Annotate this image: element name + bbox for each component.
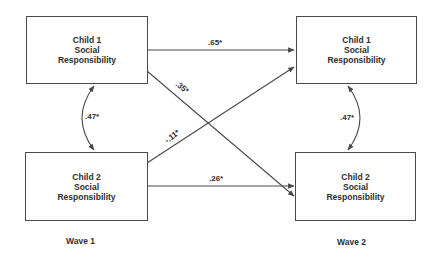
node-label: Responsibility (57, 192, 115, 202)
wave1-label: Wave 1 (66, 236, 95, 246)
node-wave2-child2: Child 2 Social Responsibility (295, 152, 416, 221)
node-label: Social (343, 182, 368, 192)
coef-c2-stability: .26* (209, 174, 223, 183)
node-label: Child 1 (342, 35, 370, 45)
node-label: Social (74, 45, 99, 55)
coef-w2-covariance: .47* (340, 113, 354, 122)
node-label: Responsibility (326, 192, 384, 202)
node-wave1-child2: Child 2 Social Responsibility (25, 152, 148, 221)
node-wave2-child1: Child 1 Social Responsibility (296, 16, 417, 84)
node-label: Child 2 (72, 172, 100, 182)
node-label: Child 2 (341, 172, 369, 182)
coef-c1-stability: .65* (208, 38, 222, 47)
node-label: Responsibility (327, 55, 385, 65)
arrow-c2-to-c1 (147, 67, 294, 163)
coef-w1-covariance: .47* (85, 112, 99, 121)
node-label: Social (74, 182, 99, 192)
node-label: Social (344, 45, 369, 55)
node-label: Child 1 (73, 35, 101, 45)
node-wave1-child1: Child 1 Social Responsibility (26, 16, 148, 84)
node-label: Responsibility (58, 55, 116, 65)
wave2-label: Wave 2 (337, 237, 366, 247)
